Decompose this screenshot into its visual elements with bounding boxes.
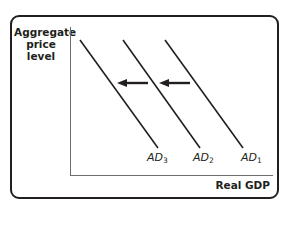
ad2-label-sub: 2 — [209, 156, 214, 165]
ad3-label-sub: 3 — [163, 156, 168, 165]
arrowhead-icon — [117, 79, 127, 87]
ad2-label-base: AD — [193, 151, 209, 164]
ad3-label-base: AD — [147, 151, 163, 164]
ad3-label: AD3 — [147, 151, 168, 165]
ad3-curve — [80, 40, 158, 148]
ad1-label: AD1 — [241, 151, 262, 165]
arrowhead-icon — [159, 79, 169, 87]
ad1-label-sub: 1 — [257, 156, 262, 165]
ad2-curve — [123, 40, 200, 148]
x-axis-label: Real GDP — [215, 179, 270, 191]
ad2-label: AD2 — [193, 151, 214, 165]
ad1-label-base: AD — [241, 151, 257, 164]
ad1-curve — [165, 40, 243, 148]
